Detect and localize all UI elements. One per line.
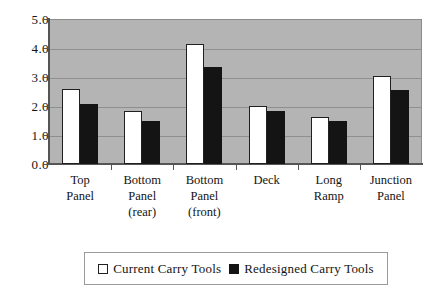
bar — [373, 76, 391, 164]
category-label-line: Top — [49, 172, 111, 188]
bar-group — [49, 19, 111, 164]
category-label-line: Bottom — [173, 172, 235, 188]
legend-entry-current: Current Carry Tools — [98, 262, 221, 276]
category-label: BottomPanel(rear) — [111, 172, 173, 220]
category-tick-marks — [49, 165, 422, 170]
category-label: Deck — [236, 172, 298, 188]
bar — [267, 111, 285, 164]
bar — [62, 89, 80, 164]
bar-group — [236, 19, 298, 164]
bar-group — [111, 19, 173, 164]
bar — [80, 104, 98, 164]
black-square-icon — [229, 264, 239, 274]
bar — [249, 106, 267, 164]
category-label-line: (rear) — [111, 204, 173, 220]
bar — [204, 67, 222, 164]
bar — [124, 111, 142, 164]
category-label: TopPanel — [49, 172, 111, 204]
white-square-icon — [98, 264, 108, 274]
bar — [186, 44, 204, 164]
category-label-line: Panel — [111, 188, 173, 204]
category-tick — [111, 165, 112, 170]
category-label-line: Long — [298, 172, 360, 188]
category-tick — [236, 165, 237, 170]
bar — [391, 90, 409, 164]
category-tick — [173, 165, 174, 170]
bar — [311, 117, 329, 164]
category-label: LongRamp — [298, 172, 360, 204]
legend-label-current: Current Carry Tools — [113, 262, 221, 276]
category-label-line: Panel — [49, 188, 111, 204]
bar-group — [298, 19, 360, 164]
category-label-line: Junction — [360, 172, 422, 188]
category-label-line: Panel — [360, 188, 422, 204]
bar — [329, 121, 347, 165]
category-label-line: Ramp — [298, 188, 360, 204]
bar — [142, 121, 160, 165]
category-label: BottomPanel(front) — [173, 172, 235, 220]
category-tick — [298, 165, 299, 170]
category-label-line: Deck — [236, 172, 298, 188]
category-label: JunctionPanel — [360, 172, 422, 204]
y-axis: 5.0 4.0 3.0 2.0 1.0 0.0 — [0, 0, 49, 302]
legend-label-redesigned: Redesigned Carry Tools — [244, 262, 374, 276]
bars-layer — [49, 19, 422, 164]
bar-group — [173, 19, 235, 164]
bar-chart: 5.0 4.0 3.0 2.0 1.0 0.0 TopPanelBottomPa… — [0, 0, 435, 302]
legend-entry-redesigned: Redesigned Carry Tools — [229, 262, 374, 276]
bar-group — [360, 19, 422, 164]
category-tick — [360, 165, 361, 170]
category-label-line: (front) — [173, 204, 235, 220]
category-axis-labels: TopPanelBottomPanel(rear)BottomPanel(fro… — [49, 172, 422, 232]
category-label-line: Bottom — [111, 172, 173, 188]
chart-legend: Current Carry Tools Redesigned Carry Too… — [84, 252, 388, 285]
category-label-line: Panel — [173, 188, 235, 204]
